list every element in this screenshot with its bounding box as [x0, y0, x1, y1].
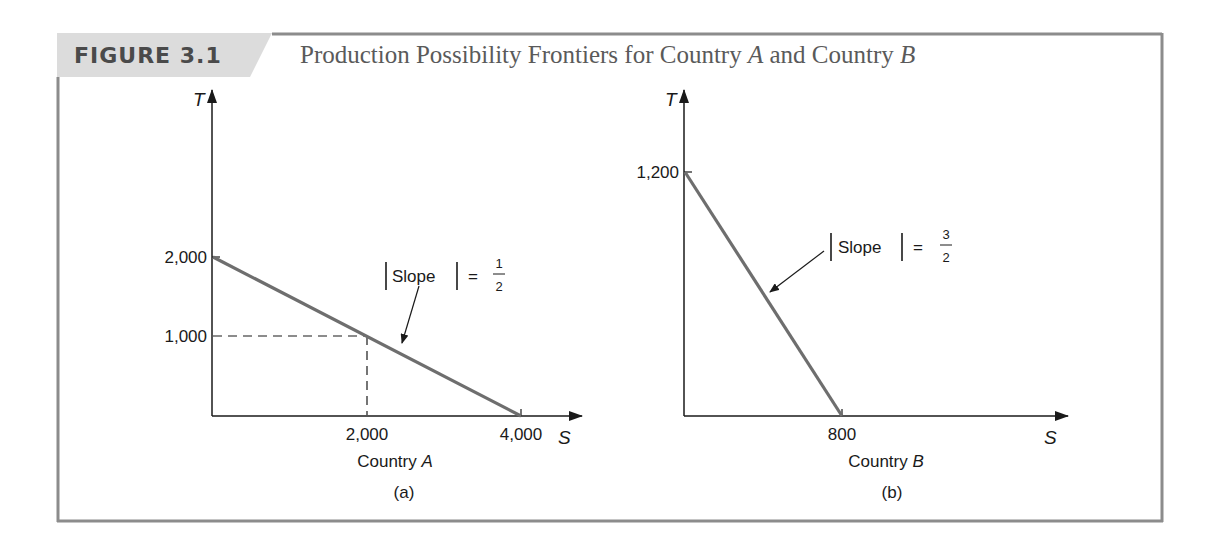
panel-a-slope-word: Slope — [392, 267, 435, 286]
panel-b-y-tick-label-1200: 1,200 — [636, 163, 679, 182]
panel-a-country-prefix: Country — [357, 452, 421, 471]
figure-title: Production Possibility Frontiers for Cou… — [300, 41, 915, 68]
panel-b-chart: T S 1,200 800 Slope = 3 2 Country B (b) — [636, 89, 1068, 502]
panel-a-chart: T S 2,000 1,000 2,000 4,000 Slope = 1 2 — [164, 89, 582, 502]
panel-b-x-tick-label-800: 800 — [828, 425, 856, 444]
panel-a-y-axis-label: T — [193, 89, 206, 110]
figure-title-country-a: A — [746, 41, 764, 68]
panel-a-slope-annotation: Slope = 1 2 — [386, 256, 505, 343]
figure-title-prefix: Production Possibility Frontiers for Cou… — [300, 41, 748, 68]
panel-a-country-letter: A — [420, 452, 432, 471]
panel-b-slope-equals: = — [913, 238, 923, 257]
figure-frame — [57, 33, 1163, 522]
panel-b-x-axis-label: S — [1044, 427, 1057, 448]
panel-a-y-tick-label-1000: 1,000 — [164, 327, 207, 346]
panel-b-label: (b) — [882, 483, 903, 502]
panel-b-country-label: Country B — [848, 452, 924, 471]
panel-b-slope-denominator: 2 — [942, 250, 949, 265]
panel-a-x-axis-label: S — [558, 427, 571, 448]
panel-a-y-tick-label-2000: 2,000 — [164, 248, 207, 267]
panel-b-country-prefix: Country — [848, 452, 912, 471]
panel-a-slope-pointer-arrow — [402, 286, 419, 343]
panel-b-slope-word: Slope — [838, 238, 881, 257]
panel-a-slope-numerator: 1 — [495, 256, 502, 271]
figure-title-mid: and Country — [763, 41, 900, 68]
panel-a-country-label: Country A — [357, 452, 433, 471]
panel-a-slope-equals: = — [468, 267, 478, 286]
panel-b-slope-pointer-arrow — [770, 251, 824, 292]
panel-b-slope-numerator: 3 — [942, 227, 949, 242]
panel-a-x-tick-label-2000: 2,000 — [346, 425, 389, 444]
panel-b-y-axis-label: T — [665, 89, 678, 110]
figure-title-country-b: B — [900, 41, 915, 68]
panel-a-label: (a) — [394, 483, 415, 502]
figure-number: FIGURE 3.1 — [74, 43, 222, 68]
panel-a-slope-denominator: 2 — [495, 279, 502, 294]
figure-3-1: FIGURE 3.1 Production Possibility Fronti… — [0, 0, 1219, 555]
panel-b-country-letter: B — [912, 452, 923, 471]
panel-b-slope-annotation: Slope = 3 2 — [770, 227, 952, 292]
panel-a-x-tick-label-4000: 4,000 — [500, 425, 543, 444]
panel-b-frontier-line — [685, 172, 842, 416]
